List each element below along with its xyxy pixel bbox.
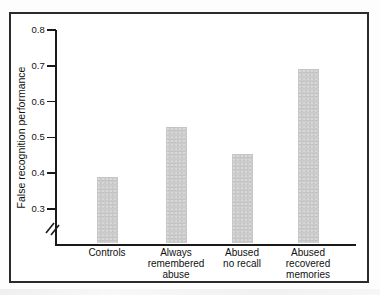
y-tick-label: 0.6 xyxy=(17,96,45,108)
bar-chart: False recognition performance 0.30.40.50… xyxy=(0,0,380,295)
bar-controls xyxy=(97,177,118,244)
y-tick-label: 0.7 xyxy=(17,60,45,72)
bar-always-remembered-abuse xyxy=(166,127,187,244)
y-tick xyxy=(47,172,56,174)
y-tick xyxy=(47,101,56,103)
y-tick xyxy=(47,29,56,31)
bar-abused-no-recall xyxy=(232,154,253,244)
y-tick xyxy=(47,65,56,67)
y-tick-label: 0.8 xyxy=(17,24,45,36)
x-category-label: Abusedrecoveredmemories xyxy=(266,247,350,280)
x-axis-line xyxy=(55,244,356,246)
axis-break-icon xyxy=(43,219,63,237)
y-tick-label: 0.3 xyxy=(17,203,45,215)
y-tick-label: 0.5 xyxy=(17,131,45,143)
y-tick xyxy=(47,208,56,210)
x-category-label-line: abuse xyxy=(134,269,218,280)
x-category-label-line: memories xyxy=(266,269,350,280)
x-category-label-line: recovered xyxy=(266,258,350,269)
bar-abused-recovered-memories xyxy=(298,69,319,243)
y-tick xyxy=(47,137,56,139)
page-shadow-artifact xyxy=(0,289,380,295)
figure-canvas: False recognition performance 0.30.40.50… xyxy=(0,0,380,295)
y-tick-label: 0.4 xyxy=(17,167,45,179)
x-category-label-line: Abused xyxy=(266,247,350,258)
